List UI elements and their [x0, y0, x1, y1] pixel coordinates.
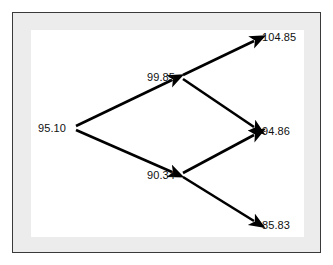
node-label-down: 90.34: [147, 169, 175, 181]
node-label-up: 99.85: [147, 71, 175, 83]
node-label-root: 95.10: [38, 122, 66, 134]
figure-screenshot: 95.10 99.85 90.34 104.85 94.86 85.83: [0, 0, 333, 265]
node-label-up-up: 104.85: [262, 31, 296, 43]
node-label-down-down: 85.83: [262, 219, 290, 231]
node-label-up-down: 94.86: [262, 125, 290, 137]
